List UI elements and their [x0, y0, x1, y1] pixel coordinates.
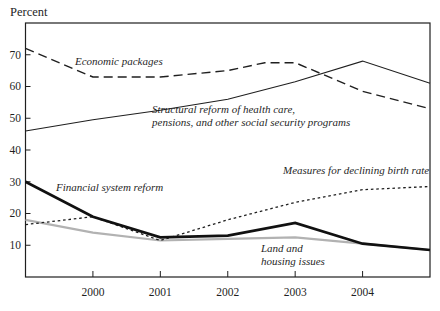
x-tick-label: 2000: [81, 286, 104, 298]
y-tick-label: 50: [10, 112, 22, 124]
x-tick-label: 2002: [216, 286, 239, 298]
line-chart-figure: Percent 10203040506070200020012002200320…: [0, 0, 440, 311]
y-tick-label: 20: [10, 207, 22, 219]
x-tick-label: 2001: [149, 286, 172, 298]
y-tick-label: 40: [10, 144, 22, 156]
y-tick-label: 60: [10, 80, 22, 92]
y-tick-label: 30: [10, 176, 22, 188]
chart-plot-area: 1020304050607020002001200220032004: [0, 0, 440, 311]
y-tick-label: 10: [10, 239, 22, 251]
series-line-structural-reform-of-health-care-pensions-: [26, 61, 431, 131]
y-tick-label: 70: [10, 49, 22, 61]
x-tick-label: 2004: [351, 286, 374, 298]
x-tick-label: 2003: [284, 286, 307, 298]
